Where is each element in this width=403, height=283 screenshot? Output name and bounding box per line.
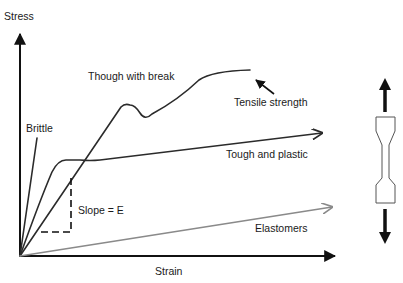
arrow-up-icon [379,78,391,112]
x-axis-label: Strain [155,265,183,277]
curve-brittle [20,138,37,256]
label-brittle: Brittle [26,122,53,134]
curve-tough-with-break [20,70,250,256]
y-axis-label: Stress [4,10,34,22]
tensile-strength-arrow [256,80,274,94]
label-elastomers: Elastomers [255,222,308,234]
label-tensile-strength: Tensile strength [234,96,308,108]
label-slope: Slope = E [78,204,124,216]
label-tough-with-break: Though with break [88,70,175,82]
stress-strain-diagram: Stress Strain Brittle Though with break … [0,0,403,283]
arrow-down-icon [379,209,391,244]
tensile-specimen [376,78,395,244]
dog-bone-shape [376,117,395,203]
label-tough-and-plastic: Tough and plastic [226,148,308,160]
